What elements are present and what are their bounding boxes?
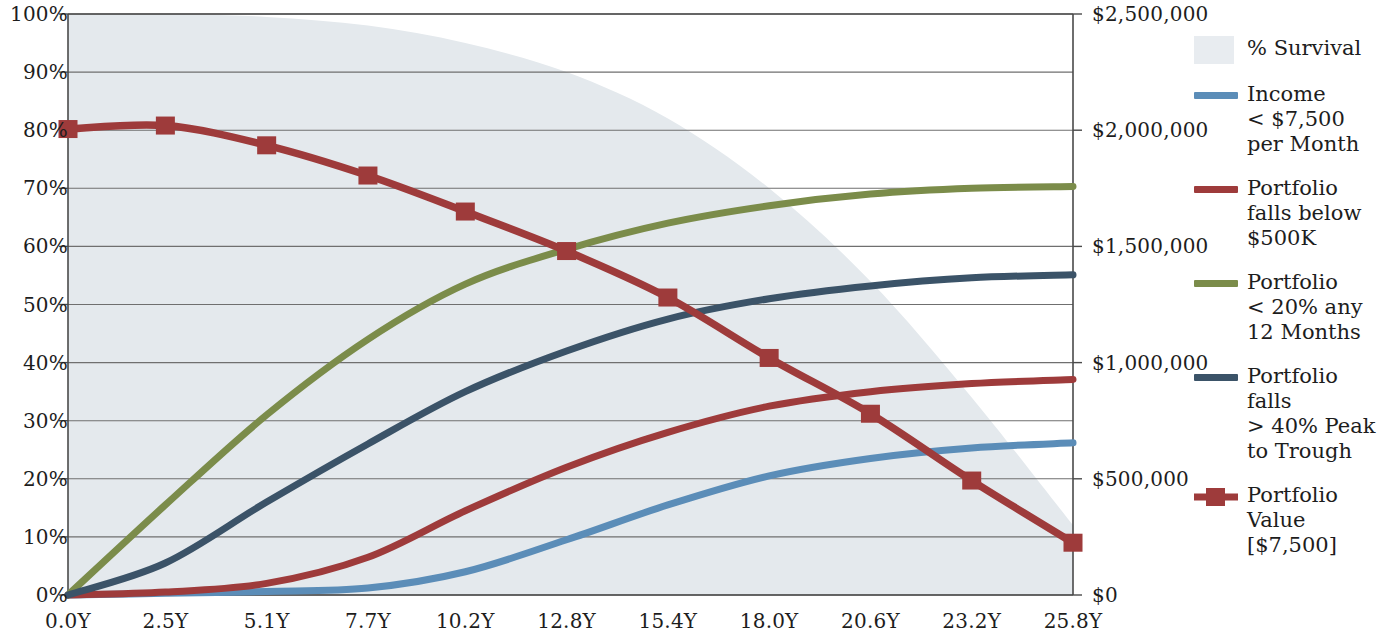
legend-label-line3: 12 Months: [1247, 320, 1363, 345]
chart-plot-area: [0, 0, 1180, 634]
data-point-marker: [861, 405, 880, 423]
y-axis-left-tick-label: 20%: [23, 467, 68, 491]
y-axis-left-tick-label: 50%: [23, 293, 68, 317]
x-axis-tick-label: 18.0Y: [740, 609, 799, 633]
legend-label: Portfolio< 20% any12 Months: [1244, 270, 1363, 345]
legend-label: PortfolioValue[$7,500]: [1244, 483, 1338, 558]
y-axis-right-tick-label: $2,500,000: [1092, 2, 1209, 26]
legend-label-line1: Portfolio: [1247, 483, 1338, 507]
legend-label-line1: Portfolio: [1247, 270, 1338, 294]
legend-line-swatch-icon: [1194, 92, 1238, 99]
legend-label-line2: Value: [1247, 508, 1338, 533]
chart-legend: % SurvivalIncome< $7,500per MonthPortfol…: [1194, 36, 1383, 577]
y-axis-left-tick-label: 70%: [23, 176, 68, 200]
legend-label-line2: > 40% Peak: [1247, 414, 1383, 439]
x-axis-tick-label: 2.5Y: [142, 609, 188, 633]
legend-swatch-wrap: [1194, 483, 1244, 510]
legend-label-line1: Income: [1247, 82, 1326, 106]
legend-label-line3: per Month: [1247, 132, 1359, 157]
legend-item[interactable]: Income< $7,500per Month: [1194, 82, 1383, 157]
y-axis-left-tick-label: 10%: [23, 525, 68, 549]
y-axis-left-tick-label: 80%: [23, 118, 68, 142]
y-axis-left-tick-label: 30%: [23, 409, 68, 433]
y-axis-right-tick-label: $2,000,000: [1092, 118, 1209, 142]
data-point-marker: [156, 117, 175, 135]
x-axis-tick-label: 15.4Y: [639, 609, 698, 633]
legend-label-line1: Portfolio: [1247, 176, 1338, 200]
legend-label-line2: < $7,500: [1247, 107, 1359, 132]
legend-item[interactable]: PortfolioValue[$7,500]: [1194, 483, 1383, 558]
legend-label-line2: falls below: [1247, 201, 1361, 226]
legend-item[interactable]: Portfoliofalls below$500K: [1194, 176, 1383, 251]
legend-line-swatch-icon: [1194, 186, 1238, 193]
data-point-marker: [358, 167, 377, 185]
legend-label-line3: $500K: [1247, 226, 1361, 251]
x-axis-tick-label: 25.8Y: [1044, 609, 1103, 633]
y-axis-left-tick-label: 0%: [36, 583, 68, 607]
legend-item[interactable]: % Survival: [1194, 36, 1383, 63]
legend-swatch-wrap: [1194, 270, 1244, 297]
legend-item[interactable]: Portfolio falls> 40% Peakto Trough: [1194, 364, 1383, 464]
data-point-marker: [456, 203, 475, 221]
legend-line-marker-swatch-icon: [1194, 488, 1238, 506]
data-point-marker: [557, 242, 576, 260]
legend-line-swatch-icon: [1194, 374, 1238, 381]
chart-screenshot: 100%90%80%70%60%50%40%30%20%10%0% $2,500…: [0, 0, 1383, 634]
x-axis-tick-label: 12.8Y: [537, 609, 596, 633]
data-point-marker: [760, 349, 779, 367]
data-point-marker: [962, 472, 981, 490]
legend-label: % Survival: [1244, 36, 1361, 61]
y-axis-right-tick-label: $1,500,000: [1092, 234, 1209, 258]
y-axis-right-tick-label: $500,000: [1092, 467, 1189, 491]
legend-label-line1: Portfolio falls: [1247, 364, 1338, 413]
legend-swatch-wrap: [1194, 36, 1244, 63]
x-axis-tick-label: 7.7Y: [345, 609, 391, 633]
legend-area-swatch-icon: [1194, 36, 1234, 64]
data-point-marker: [658, 289, 677, 307]
y-axis-left-tick-label: 60%: [23, 234, 68, 258]
legend-line-swatch-icon: [1194, 280, 1238, 287]
legend-swatch-wrap: [1194, 176, 1244, 203]
legend-label: Portfolio falls> 40% Peakto Trough: [1244, 364, 1383, 464]
legend-label-line2: < 20% any: [1247, 295, 1363, 320]
y-axis-left-tick-label: 40%: [23, 351, 68, 375]
data-point-marker: [1064, 534, 1083, 552]
legend-label-line3: [$7,500]: [1247, 533, 1338, 558]
legend-label: Income< $7,500per Month: [1244, 82, 1359, 157]
legend-item[interactable]: Portfolio< 20% any12 Months: [1194, 270, 1383, 345]
x-axis-tick-label: 0.0Y: [45, 609, 91, 633]
x-axis-tick-label: 23.2Y: [942, 609, 1001, 633]
y-axis-right-tick-label: $0: [1092, 583, 1118, 607]
y-axis-right-tick-label: $1,000,000: [1092, 351, 1209, 375]
legend-swatch-square: [1206, 488, 1225, 506]
legend-label-line3: to Trough: [1247, 439, 1383, 464]
chart-svg: [0, 0, 1180, 634]
legend-label-line1: % Survival: [1247, 36, 1361, 60]
legend-swatch-wrap: [1194, 364, 1244, 391]
legend-swatch-wrap: [1194, 82, 1244, 109]
x-axis-tick-label: 5.1Y: [244, 609, 290, 633]
y-axis-left-tick-label: 90%: [23, 60, 68, 84]
x-axis-tick-label: 10.2Y: [436, 609, 495, 633]
x-axis-tick-label: 20.6Y: [841, 609, 900, 633]
y-axis-left-tick-label: 100%: [10, 2, 68, 26]
legend-label: Portfoliofalls below$500K: [1244, 176, 1361, 251]
data-point-marker: [257, 136, 276, 154]
